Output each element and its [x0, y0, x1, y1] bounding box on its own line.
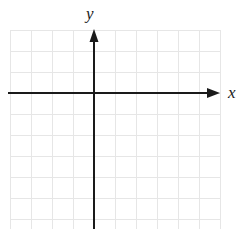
x-axis-arrowhead	[207, 88, 220, 98]
coordinate-plane-figure: y x	[0, 0, 243, 229]
y-axis-label: y	[86, 5, 94, 22]
axes-group	[0, 0, 243, 229]
x-axis-label: x	[228, 84, 236, 101]
y-axis-arrowhead	[90, 29, 99, 42]
